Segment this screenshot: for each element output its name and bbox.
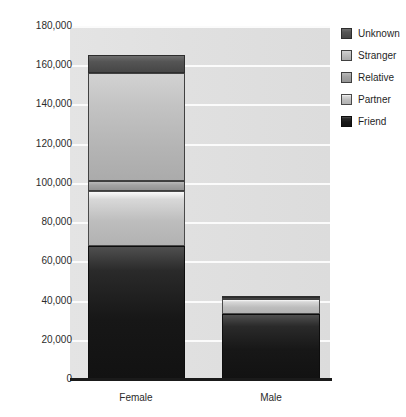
bar-segment-friend bbox=[222, 314, 320, 379]
y-axis-tick-label: 140,000 bbox=[12, 99, 72, 109]
y-axis-tick-label: 40,000 bbox=[12, 296, 72, 306]
legend-swatch-icon bbox=[341, 94, 352, 105]
stacked-bar-chart: 180,000 160,000 140,000 120,000 100,000 … bbox=[0, 0, 406, 417]
legend-item-partner[interactable]: Partner bbox=[341, 88, 406, 110]
legend-swatch-icon bbox=[341, 72, 352, 83]
legend: Unknown Stranger Relative Partner Friend bbox=[341, 22, 406, 132]
legend-item-label: Stranger bbox=[358, 50, 396, 61]
x-axis-tick-label-male: Male bbox=[211, 392, 331, 403]
legend-item-unknown[interactable]: Unknown bbox=[341, 22, 406, 44]
legend-item-label: Relative bbox=[358, 72, 394, 83]
legend-swatch-icon bbox=[341, 28, 352, 39]
bar-female bbox=[88, 26, 185, 379]
legend-item-label: Friend bbox=[358, 116, 386, 127]
bar-segment-relative bbox=[88, 181, 185, 191]
legend-item-relative[interactable]: Relative bbox=[341, 66, 406, 88]
bar-segment-partner bbox=[88, 191, 185, 246]
y-axis-tick-label: 80,000 bbox=[12, 217, 72, 227]
legend-swatch-icon bbox=[341, 116, 352, 127]
y-axis-tick-label: 120,000 bbox=[12, 139, 72, 149]
legend-item-label: Unknown bbox=[358, 28, 400, 39]
y-axis-tick-label: 160,000 bbox=[12, 60, 72, 70]
legend-item-friend[interactable]: Friend bbox=[341, 110, 406, 132]
y-axis-tick-label: 100,000 bbox=[12, 178, 72, 188]
bar-segment-stranger bbox=[88, 73, 185, 181]
x-axis-tick-label-female: Female bbox=[76, 392, 196, 403]
bar-segment-unknown bbox=[88, 55, 185, 73]
legend-item-stranger[interactable]: Stranger bbox=[341, 44, 406, 66]
bar-segment-friend bbox=[88, 246, 185, 379]
x-axis-line bbox=[70, 378, 332, 381]
y-axis-tick-label: 180,000 bbox=[12, 21, 72, 31]
bar-male bbox=[222, 26, 320, 379]
y-axis-tick-label: 20,000 bbox=[12, 335, 72, 345]
legend-item-label: Partner bbox=[358, 94, 391, 105]
y-axis-tick-label: 0 bbox=[12, 374, 72, 384]
bar-segment-unknown bbox=[222, 296, 320, 298]
bar-segment-partner bbox=[222, 299, 320, 315]
legend-swatch-icon bbox=[341, 50, 352, 61]
y-axis-tick-label: 60,000 bbox=[12, 256, 72, 266]
